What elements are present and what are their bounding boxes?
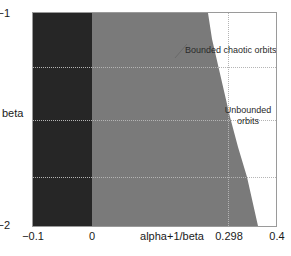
ytick-label-bottom: −2 <box>0 219 10 232</box>
dark-region <box>33 13 92 226</box>
ytick-label-top: −1 <box>0 7 10 20</box>
unbounded-orbits-line1: Unbounded <box>211 105 277 116</box>
y-axis-title: beta <box>2 107 23 119</box>
figure-canvas: Bounded chaotic orbits Unbounded orbits … <box>0 0 291 256</box>
unbounded-orbits-line2: orbits <box>211 116 277 127</box>
xtick-label-1: 0 <box>89 230 95 243</box>
xtick-label-2: 0.298 <box>215 230 243 243</box>
xtick-label-3: 0.4 <box>269 230 284 243</box>
bounded-chaotic-orbits-label: Bounded chaotic orbits <box>185 45 277 56</box>
xtick-label-0: −0.1 <box>22 230 44 243</box>
plot-area: Bounded chaotic orbits Unbounded orbits <box>32 12 277 227</box>
x-axis-title: alpha+1/beta <box>140 230 204 242</box>
unbounded-orbits-label: Unbounded orbits <box>211 105 277 127</box>
